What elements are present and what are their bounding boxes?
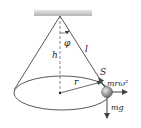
orbit-ellipse xyxy=(14,76,110,110)
weight-label: mg xyxy=(111,103,124,112)
centrifugal-label: mrω² xyxy=(107,79,128,88)
angle-label: φ xyxy=(64,38,71,48)
radius-line xyxy=(60,82,101,93)
ceiling-support xyxy=(34,10,92,16)
conical-pendulum-diagram: φ l h r S mrω² mg xyxy=(0,0,141,128)
tension-label: S xyxy=(100,67,106,77)
pendulum-ball xyxy=(102,87,113,98)
length-label: l xyxy=(85,44,88,54)
height-label: h xyxy=(52,50,58,60)
radius-label: r xyxy=(74,77,79,87)
angle-arc xyxy=(60,31,69,33)
